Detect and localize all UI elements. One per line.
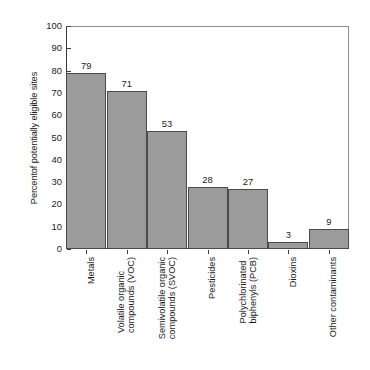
y-tick-label: 60 (36, 110, 62, 119)
x-category-label: Polychlorinatedbiphenyls (PCB) (238, 257, 259, 323)
x-category-label: Semivolatile organiccompounds (SVOC) (157, 257, 178, 339)
x-category-label: Other contaminants (328, 257, 338, 337)
x-tick-mark (167, 250, 168, 254)
x-category-label: Dioxins (288, 257, 298, 287)
y-tick-label: 20 (36, 199, 62, 208)
x-tick-mark (248, 250, 249, 254)
y-tick-mark (67, 93, 71, 94)
x-category-label-line: Volatile organic (116, 257, 126, 333)
y-tick-label: 30 (36, 177, 62, 186)
x-category-label-line: Polychlorinated (238, 257, 248, 323)
bar-chart-figure: Percentof potentially eligible sites 010… (0, 0, 370, 370)
y-tick-mark (67, 71, 71, 72)
y-tick-label: 70 (36, 88, 62, 97)
x-category-label-line: Other contaminants (328, 257, 338, 337)
y-tick-label: 100 (36, 21, 62, 30)
x-category-label-line: Dioxins (288, 257, 298, 287)
x-category-label-line: biphenyls (PCB) (248, 257, 258, 323)
y-tick-label: 40 (36, 155, 62, 164)
x-tick-mark (288, 250, 289, 254)
x-category-label-line: Semivolatile organic (157, 257, 167, 339)
y-tick-label: 50 (36, 133, 62, 142)
y-tick-mark (67, 204, 71, 205)
y-tick-label: 10 (36, 222, 62, 231)
x-category-label: Metals (86, 257, 96, 284)
y-tick-mark (67, 249, 71, 250)
x-category-label-line: Metals (86, 257, 96, 284)
y-tick-label: 0 (36, 244, 62, 253)
y-tick-mark (67, 160, 71, 161)
y-tick-mark (67, 138, 71, 139)
y-tick-mark (67, 182, 71, 183)
plot-area-frame (66, 26, 349, 249)
x-category-label-line: Pesticides (207, 257, 217, 299)
y-tick-label: 80 (36, 66, 62, 75)
y-tick-mark (67, 227, 71, 228)
x-tick-mark (86, 250, 87, 254)
x-tick-mark (208, 250, 209, 254)
x-category-label: Pesticides (207, 257, 217, 299)
y-tick-mark (67, 26, 71, 27)
y-tick-mark (67, 48, 71, 49)
x-category-label-line: compounds (VOC) (127, 257, 137, 333)
y-tick-mark (67, 115, 71, 116)
x-category-label-line: compounds (SVOC) (167, 257, 177, 339)
x-tick-mark (127, 250, 128, 254)
x-category-label: Volatile organiccompounds (VOC) (116, 257, 137, 333)
x-tick-mark (329, 250, 330, 254)
y-tick-label: 90 (36, 43, 62, 52)
